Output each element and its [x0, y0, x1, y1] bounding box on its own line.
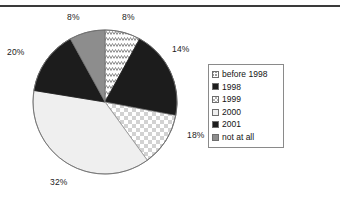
- pie-chart-figure: 8% 14% 18% 32% 20% 8% before 1998 1998 1…: [0, 0, 340, 197]
- gray-swatch-icon: [212, 134, 219, 141]
- legend-label: 2000: [222, 108, 241, 117]
- black-swatch-icon: [212, 121, 219, 128]
- black-swatch-icon: [212, 83, 219, 90]
- slice-label-2000: 32%: [50, 177, 68, 187]
- pie-plot-area: 8% 14% 18% 32% 20% 8%: [0, 0, 215, 197]
- legend-item-2001[interactable]: 2001: [212, 118, 280, 131]
- legend-item-not-at-all[interactable]: not at all: [212, 131, 280, 144]
- chart-legend: before 1998 1998 1999 2000 2001 not at a…: [208, 64, 284, 148]
- slice-label-before-1998: 8%: [122, 12, 135, 22]
- slice-label-not-at-all: 8%: [67, 12, 80, 22]
- legend-item-2000[interactable]: 2000: [212, 106, 280, 119]
- legend-item-1998[interactable]: 1998: [212, 81, 280, 94]
- zigzag-swatch-icon: [212, 71, 219, 78]
- pie-svg: [0, 0, 215, 197]
- slice-label-2001: 20%: [7, 47, 25, 57]
- checkerboard-swatch-icon: [212, 96, 219, 103]
- legend-label: before 1998: [222, 70, 267, 79]
- legend-label: not at all: [222, 133, 254, 142]
- slice-label-1999: 18%: [187, 130, 205, 140]
- legend-item-before-1998[interactable]: before 1998: [212, 68, 280, 81]
- legend-label: 2001: [222, 120, 241, 129]
- light-swatch-icon: [212, 109, 219, 116]
- legend-label: 1999: [222, 95, 241, 104]
- slice-label-1998: 14%: [172, 44, 190, 54]
- legend-label: 1998: [222, 83, 241, 92]
- legend-item-1999[interactable]: 1999: [212, 93, 280, 106]
